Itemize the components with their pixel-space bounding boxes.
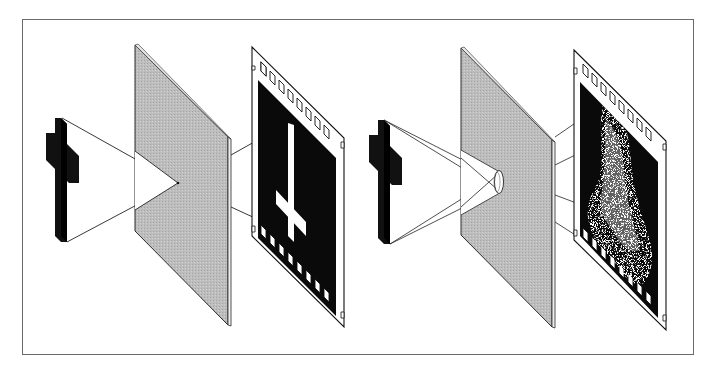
- pinhole-icon: [177, 182, 180, 185]
- figure: Pinhole vs. lens image formation on film: [0, 0, 719, 377]
- lens-icon: [494, 171, 504, 194]
